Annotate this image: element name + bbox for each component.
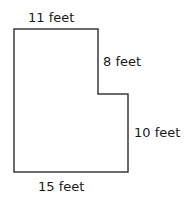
l-shape-outline bbox=[0, 0, 194, 202]
l-shape-diagram: 11 feet 8 feet 10 feet 15 feet bbox=[0, 0, 194, 202]
lower-right-edge-label: 10 feet bbox=[134, 126, 180, 139]
upper-right-edge-label: 8 feet bbox=[103, 55, 141, 68]
bottom-edge-label: 15 feet bbox=[38, 180, 84, 193]
top-edge-label: 11 feet bbox=[28, 11, 74, 24]
